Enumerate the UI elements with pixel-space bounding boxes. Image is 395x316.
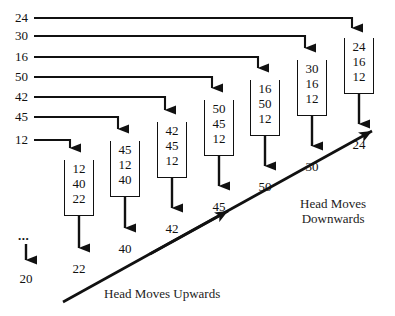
queue-output-label-2: 40	[112, 242, 138, 255]
queue-box-1: 12 40 22	[64, 160, 94, 216]
request-label-4: 42	[4, 90, 28, 103]
queue-cell: 16	[259, 81, 272, 96]
queue-cell: 45	[119, 142, 132, 157]
queue-box-4: 50 45 12	[204, 100, 234, 156]
request-line-50	[34, 77, 212, 88]
request-label-2: 16	[4, 50, 28, 63]
queue-cell: 45	[213, 116, 226, 131]
queue-cell: 12	[119, 157, 132, 172]
queue-cell: 16	[353, 54, 366, 69]
queue-box-5: 16 50 12	[250, 80, 280, 136]
queue-cell: 50	[259, 96, 272, 111]
queue-cell: 40	[119, 172, 132, 187]
queue-cell: 45	[166, 138, 179, 153]
request-line-12	[34, 140, 70, 148]
request-line-16	[34, 57, 258, 68]
queue-output-label-6: 30	[299, 160, 325, 173]
request-line-24	[34, 18, 352, 28]
queue-cell: 12	[213, 131, 226, 146]
queue-box-7: 24 16 12	[344, 38, 374, 94]
queue-cell: 12	[259, 111, 272, 126]
queue-cell: 24	[353, 39, 366, 54]
queue-cell: 40	[73, 176, 86, 191]
queue-cell: 12	[166, 153, 179, 168]
queue-cell: 12	[353, 69, 366, 84]
queue-box-2: 45 12 40	[110, 141, 140, 197]
diagram-vector-layer	[0, 0, 395, 316]
request-line-45	[34, 117, 118, 129]
queue-cell: 50	[213, 101, 226, 116]
queue-cell: 12	[73, 161, 86, 176]
queue-cell: 30	[306, 61, 319, 76]
queue-output-label-7: 24	[346, 138, 372, 151]
head-moves-upwards-label: Head Moves Upwards	[104, 286, 220, 301]
initial-position-label: 20	[13, 272, 39, 285]
queue-output-label-1: 22	[66, 262, 92, 275]
request-label-6: 12	[4, 133, 28, 146]
request-label-3: 50	[4, 70, 28, 83]
queue-output-label-5: 50	[252, 180, 278, 193]
request-line-42	[34, 97, 165, 110]
request-label-0: 24	[4, 11, 28, 24]
request-label-5: 45	[4, 110, 28, 123]
head-moves-downwards-label: Head Moves Downwards	[300, 196, 366, 226]
initial-ellipsis: ...	[18, 228, 29, 244]
queue-cell: 42	[166, 123, 179, 138]
request-line-30	[34, 36, 305, 48]
queue-cell: 22	[73, 191, 86, 206]
queue-output-label-3: 42	[159, 222, 185, 235]
queue-cell: 12	[306, 91, 319, 106]
disk-scheduling-diagram: 24 30 16 50 42 45 12 12 40 22 45 12 40 4…	[0, 0, 395, 316]
queue-output-label-4: 45	[206, 200, 232, 213]
request-label-1: 30	[4, 29, 28, 42]
queue-cell: 16	[306, 76, 319, 91]
queue-box-3: 42 45 12	[157, 122, 187, 178]
queue-box-6: 30 16 12	[297, 60, 327, 116]
